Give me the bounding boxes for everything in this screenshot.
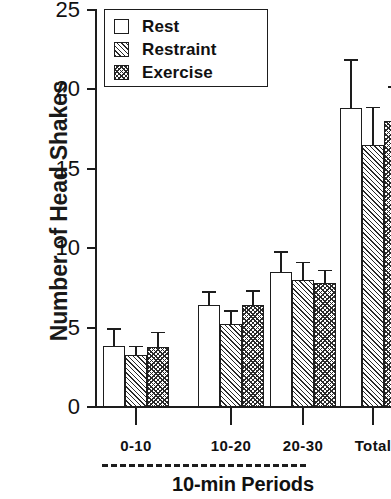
x-tick-mark: [302, 408, 304, 425]
y-tick-mark: [87, 406, 96, 408]
bar-rest-0-10: [103, 346, 125, 407]
error-bar-stem: [230, 310, 232, 323]
bar-exercise-20-30: [314, 283, 336, 407]
error-bar-cap: [296, 262, 310, 264]
y-tick-label: 20: [20, 78, 80, 100]
legend-label-restraint: Restraint: [142, 40, 217, 60]
bar-restraint-20-30: [292, 280, 314, 407]
error-bar-cap: [129, 346, 143, 348]
error-bar-cap: [224, 310, 238, 312]
x-tick-mark: [372, 408, 374, 425]
y-tick-mark: [87, 9, 96, 11]
bar-rest-10-20: [198, 305, 220, 407]
y-tick-label: 25: [20, 0, 80, 21]
x-tick-label-0-10: 0-10: [91, 437, 181, 454]
bar-exercise-10-20: [242, 305, 264, 407]
period-bracket-dashed-line: [102, 464, 306, 467]
bar-rest-total: [340, 108, 362, 407]
x-tick-mark: [230, 408, 232, 425]
y-tick-mark: [87, 327, 96, 329]
bar-exercise-total: [384, 121, 391, 407]
legend-swatch-restraint: [114, 42, 129, 57]
error-bar-stem: [113, 328, 115, 345]
y-tick-label: 15: [20, 158, 80, 180]
legend-item-restraint: Restraint: [114, 38, 267, 61]
y-tick-mark: [87, 247, 96, 249]
error-bar-cap: [344, 59, 358, 61]
error-bar-stem: [208, 291, 210, 305]
error-bar-cap: [318, 270, 332, 272]
error-bar-cap: [202, 291, 216, 293]
error-bar-stem: [372, 107, 374, 145]
error-bar-cap: [246, 290, 260, 292]
y-tick-label: 5: [20, 317, 80, 339]
error-bar-stem: [350, 59, 352, 108]
bar-restraint-0-10: [125, 355, 147, 407]
error-bar-cap: [151, 332, 165, 334]
bar-exercise-0-10: [147, 347, 169, 407]
y-tick-mark: [87, 168, 96, 170]
legend-label-exercise: Exercise: [142, 63, 213, 83]
error-bar-cap: [274, 251, 288, 253]
bar-restraint-total: [362, 145, 384, 407]
bar-chart-figure: Number of Head Shakes 0510152025 0-1010-…: [0, 0, 391, 499]
error-bar-stem: [324, 270, 326, 283]
error-bar-stem: [252, 290, 254, 305]
legend-item-rest: Rest: [114, 15, 267, 38]
legend-swatch-exercise: [114, 65, 129, 80]
error-bar-cap: [107, 328, 121, 330]
y-axis-line: [95, 9, 97, 408]
legend-swatch-rest: [114, 19, 129, 34]
legend-label-rest: Rest: [142, 17, 179, 37]
error-bar-cap: [366, 107, 380, 109]
x-tick-mark: [135, 408, 137, 425]
x-tick-label-total: Total: [328, 437, 391, 454]
bar-restraint-10-20: [220, 324, 242, 407]
y-tick-mark: [87, 88, 96, 90]
x-axis-title: 10-min Periods: [95, 473, 391, 496]
legend-item-exercise: Exercise: [114, 61, 267, 84]
y-tick-label: 0: [20, 396, 80, 418]
error-bar-stem: [280, 251, 282, 272]
error-bar-stem: [302, 262, 304, 280]
y-tick-label: 10: [20, 237, 80, 259]
legend-box: Rest Restraint Exercise: [104, 9, 268, 87]
bar-rest-20-30: [270, 272, 292, 407]
error-bar-stem: [157, 332, 159, 348]
